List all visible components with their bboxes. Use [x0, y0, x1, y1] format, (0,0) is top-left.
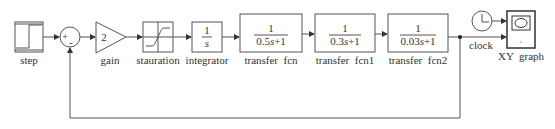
clock-block[interactable]: clock — [469, 11, 493, 51]
gain-block[interactable]: 2 gain — [96, 22, 126, 66]
tf2-numerator: 1 — [415, 22, 421, 34]
tf1-label: transfer fcn1 — [316, 54, 375, 66]
xy-graph-label: XY graph — [498, 50, 545, 62]
integrator-block[interactable]: 1 s integrator — [186, 22, 229, 66]
gain-label: gain — [101, 54, 120, 66]
transfer-fcn-block[interactable]: 1 0.5s+1 transfer fcn — [240, 14, 302, 66]
transfer-fcn1-block[interactable]: 1 0.3s+1 transfer fcn1 — [315, 14, 375, 66]
tf-label: transfer fcn — [244, 54, 298, 66]
gain-value: 2 — [101, 31, 107, 43]
integrator-denominator: s — [205, 37, 209, 49]
tf2-label: transfer fcn2 — [389, 54, 448, 66]
step-block[interactable]: step — [15, 22, 43, 66]
transfer-fcn2-block[interactable]: 1 0.03s+1 transfer fcn2 — [388, 14, 448, 66]
integrator-numerator: 1 — [204, 24, 210, 36]
minus-sign: - — [69, 37, 72, 48]
branch-point — [458, 35, 462, 39]
tf1-denominator: 0.3s+1 — [330, 35, 360, 47]
tf-denominator: 0.5s+1 — [256, 35, 286, 47]
tf2-denominator: 0.03s+1 — [400, 35, 435, 47]
clock-label: clock — [469, 39, 493, 51]
tf-numerator: 1 — [268, 22, 274, 34]
integrator-label: integrator — [186, 54, 229, 66]
sum-block[interactable]: + - — [60, 27, 80, 48]
step-label: step — [20, 54, 38, 66]
saturation-label: stauration — [136, 54, 180, 66]
plus-sign: + — [62, 31, 68, 42]
tf1-numerator: 1 — [342, 22, 348, 34]
block-diagram: step + - 2 gain stauration 1 s integrato… — [0, 0, 555, 129]
saturation-block[interactable]: stauration — [136, 22, 180, 66]
